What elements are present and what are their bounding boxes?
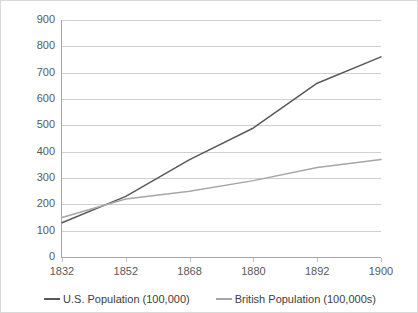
gridline [62,204,381,205]
y-tick-label: 600 [9,93,55,104]
y-tick-label: 0 [9,251,55,262]
plot-area [62,20,381,257]
y-tick-label: 500 [9,119,55,130]
x-axis-tick [317,258,318,262]
x-axis-tick [190,258,191,262]
x-axis-tick [381,258,382,262]
y-tick-label: 100 [9,225,55,236]
gridline [62,125,381,126]
gridline [62,20,381,21]
x-axis-line [61,257,381,258]
x-tick-label: 1852 [96,265,156,277]
x-axis-tick [253,258,254,262]
legend-item[interactable]: U.S. Population (100,000) [44,293,190,305]
chart-legend: U.S. Population (100,000)British Populat… [1,293,418,305]
y-tick-label: 800 [9,40,55,51]
x-tick-label: 1880 [223,265,283,277]
legend-label: U.S. Population (100,000) [63,293,190,305]
gridline [62,152,381,153]
y-tick-label: 200 [9,198,55,209]
gridline [62,178,381,179]
legend-label: British Population (100,000s) [235,293,376,305]
y-tick-label: 900 [9,14,55,25]
y-tick-label: 300 [9,172,55,183]
y-tick-label: 400 [9,146,55,157]
line-chart: 0100200300400500600700800900 18321852186… [0,0,418,313]
x-axis-tick [126,258,127,262]
legend-item[interactable]: British Population (100,000s) [216,293,376,305]
x-tick-label: 1868 [160,265,220,277]
x-tick-label: 1900 [351,265,411,277]
gridline [62,73,381,74]
x-tick-label: 1892 [287,265,347,277]
gridline [62,46,381,47]
legend-swatch-icon [216,298,232,300]
gridline [62,99,381,100]
y-axis-line [61,20,62,258]
x-tick-label: 1832 [32,265,92,277]
gridline [62,231,381,232]
legend-swatch-icon [44,298,60,300]
y-tick-label: 700 [9,67,55,78]
x-axis-tick [62,258,63,262]
